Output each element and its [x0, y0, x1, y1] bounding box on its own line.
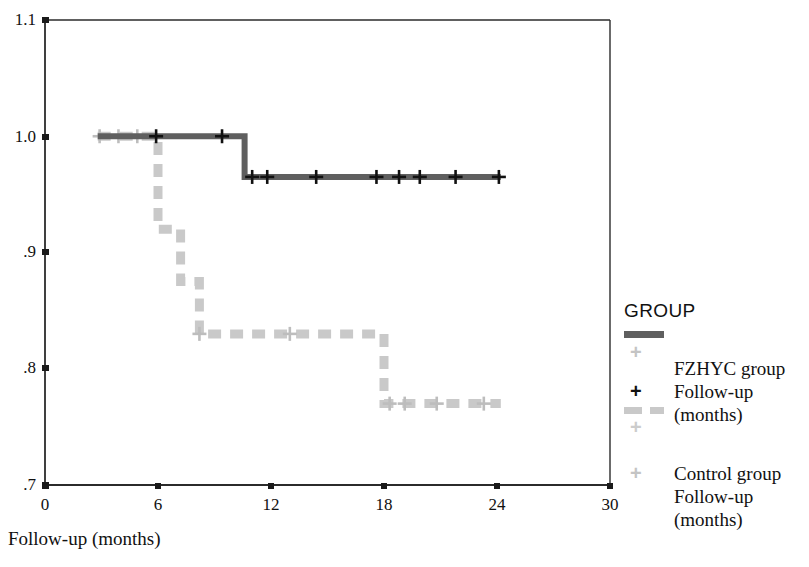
x-tick-marks: [42, 483, 613, 489]
legend-entry-fzhyc-line-1: FZHYC group: [674, 357, 785, 380]
legend-entry-control-line-2: Follow-up: [674, 485, 753, 508]
legend-entry-control-line-3: (months): [674, 508, 743, 531]
legend-entry-control-line-1: Control group: [674, 462, 781, 485]
x-axis-title: Follow-up (months): [8, 528, 161, 550]
x-tick-label-18: 18: [376, 495, 393, 515]
legend-title: GROUP: [624, 300, 696, 322]
series-control-group: [93, 129, 501, 410]
legend-swatch-fzhyc-line: [624, 331, 664, 338]
legend-entry-fzhyc-line-2: Follow-up: [674, 380, 753, 403]
y-tick-label-4: .8: [0, 358, 36, 378]
kaplan-meier-chart: 1.1 1.0 .9 .8 .7 0 6 12 18 24 30 Follow-…: [0, 0, 809, 567]
legend-plus-icon-3: +: [630, 417, 642, 437]
legend-plus-icon-2: +: [630, 381, 642, 401]
x-tick-label-12: 12: [263, 495, 280, 515]
y-tick-label-5: .7: [0, 475, 36, 495]
y-tick-label-1: 1.1: [0, 10, 36, 30]
legend-plus-icon-4: +: [630, 463, 642, 483]
x-tick-label-0: 0: [41, 495, 50, 515]
legend-swatch-control-line: [624, 407, 664, 414]
y-tick-label-3: .9: [0, 242, 36, 262]
y-tick-label-2: 1.0: [0, 127, 36, 147]
x-tick-label-6: 6: [154, 495, 163, 515]
axis-frame: [45, 20, 610, 485]
legend-entry-fzhyc-line-3: (months): [674, 403, 743, 426]
legend-plus-icon-1: +: [630, 342, 642, 362]
x-tick-label-30: 30: [602, 495, 619, 515]
x-tick-label-24: 24: [489, 495, 506, 515]
